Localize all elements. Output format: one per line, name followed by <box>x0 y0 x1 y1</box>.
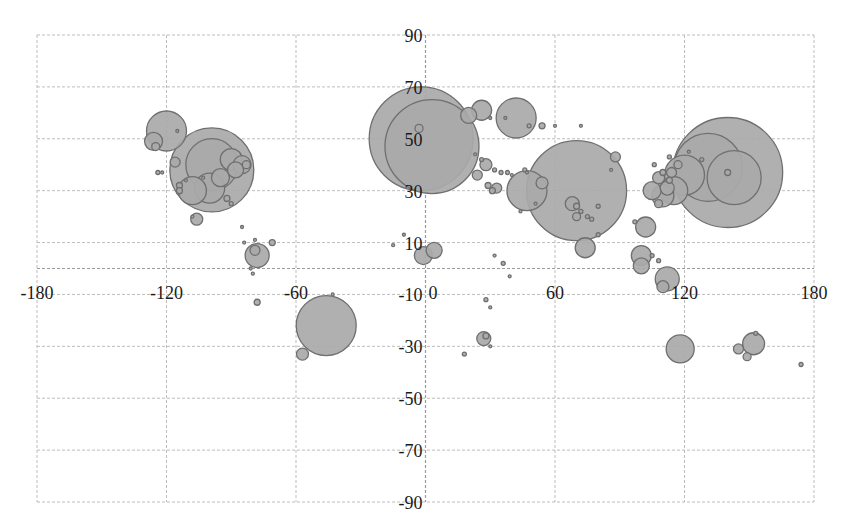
data-bubble <box>241 225 244 228</box>
data-bubble <box>242 161 250 169</box>
data-bubble <box>667 168 677 178</box>
x-tick-label: 120 <box>671 283 698 303</box>
data-bubble <box>633 258 649 274</box>
data-bubble <box>643 182 661 200</box>
bubble-chart: 9070503010-10-30-50-70-90 -180-120-60060… <box>0 0 854 532</box>
data-bubble <box>674 161 682 169</box>
x-tick-label: -180 <box>21 283 54 303</box>
data-bubble <box>536 177 548 189</box>
data-bubble <box>485 182 491 188</box>
data-bubble <box>574 203 580 209</box>
y-tick-label: 90 <box>405 26 423 46</box>
data-bubble <box>579 124 582 127</box>
data-bubble <box>667 155 671 159</box>
x-tick-label: -60 <box>284 283 308 303</box>
data-bubble <box>633 220 637 224</box>
data-bubble <box>170 157 180 167</box>
data-bubble <box>660 170 666 176</box>
y-tick-label: 10 <box>405 234 423 254</box>
data-bubble <box>510 174 513 177</box>
data-bubble <box>496 98 536 138</box>
data-bubble <box>707 151 761 205</box>
data-bubble <box>249 267 252 270</box>
data-bubble <box>743 333 765 355</box>
data-bubble <box>687 150 690 153</box>
data-bubble <box>392 244 395 247</box>
data-bubble <box>296 348 308 360</box>
data-bubble <box>462 352 466 356</box>
data-bubble <box>250 245 260 255</box>
data-bubble <box>504 117 507 120</box>
data-bubble <box>493 254 496 257</box>
data-bubble <box>596 233 600 237</box>
data-bubble <box>733 344 743 354</box>
data-bubble <box>554 124 557 127</box>
x-tick-label: 180 <box>801 283 828 303</box>
data-bubble <box>461 107 477 123</box>
data-bubble <box>472 170 482 180</box>
y-tick-label: -50 <box>399 389 423 409</box>
data-bubble <box>483 333 489 339</box>
data-bubble <box>585 215 589 219</box>
data-bubble <box>224 195 230 201</box>
data-bubble <box>243 241 246 244</box>
data-bubble <box>539 123 545 129</box>
data-bubble <box>573 213 581 221</box>
data-bubble <box>331 293 334 296</box>
data-bubble <box>176 188 182 194</box>
data-bubble <box>484 298 488 302</box>
data-bubble <box>211 169 229 187</box>
data-bubble <box>575 238 595 258</box>
data-bubble <box>202 176 205 179</box>
data-bubble <box>253 238 256 241</box>
data-bubble <box>754 331 758 335</box>
data-bubble <box>525 171 528 174</box>
data-bubble <box>156 171 160 175</box>
data-bubble <box>489 345 492 348</box>
y-tick-label: 70 <box>405 78 423 98</box>
data-bubble <box>610 168 613 171</box>
data-bubble <box>596 204 600 208</box>
data-bubble <box>269 240 275 246</box>
data-bubble <box>652 163 656 167</box>
data-bubble <box>184 179 187 182</box>
x-tick-label: 60 <box>546 283 564 303</box>
data-bubble <box>489 188 495 194</box>
data-bubble <box>725 170 731 176</box>
data-bubble <box>228 162 244 178</box>
data-bubble <box>657 281 669 293</box>
data-bubble <box>508 275 511 278</box>
data-bubble <box>534 202 537 205</box>
y-tick-label: -30 <box>399 337 423 357</box>
data-bubble <box>176 129 179 132</box>
data-bubble <box>251 272 254 275</box>
data-bubble <box>493 168 497 172</box>
x-axis-tick-labels: -180-120-60060120180 <box>21 283 828 303</box>
data-bubble <box>152 143 160 151</box>
data-bubble <box>650 254 654 258</box>
data-bubble <box>474 153 477 156</box>
y-tick-label: -90 <box>399 493 423 513</box>
data-bubble <box>161 171 164 174</box>
data-bubble <box>579 209 583 213</box>
data-bubble <box>501 261 505 265</box>
y-tick-label: 50 <box>405 130 423 150</box>
data-bubble <box>191 215 194 218</box>
data-bubble <box>480 158 484 162</box>
data-bubble <box>700 158 704 162</box>
data-bubble <box>666 335 694 363</box>
bubble-series <box>145 87 804 367</box>
data-bubble <box>489 306 492 309</box>
data-bubble <box>655 200 663 208</box>
data-bubble <box>229 202 233 206</box>
data-bubble <box>799 362 803 366</box>
data-bubble <box>527 124 531 128</box>
data-bubble <box>254 299 260 305</box>
y-tick-label: -10 <box>399 285 423 305</box>
data-bubble <box>610 152 620 162</box>
data-bubble <box>296 296 356 356</box>
data-bubble <box>489 117 492 120</box>
data-bubble <box>519 210 522 213</box>
data-bubble <box>590 217 594 221</box>
data-bubble <box>636 217 656 237</box>
